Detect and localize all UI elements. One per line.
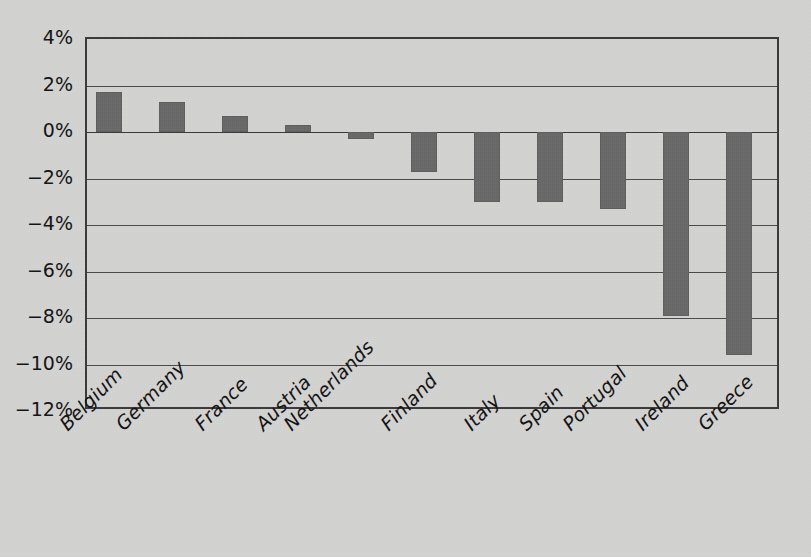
y-axis-tick-label: −6% (0, 260, 73, 279)
bar (222, 116, 248, 132)
y-axis-tick-label: −10% (0, 353, 73, 372)
bar (474, 132, 500, 202)
bar (726, 132, 752, 355)
bar (285, 125, 311, 132)
bar (96, 92, 122, 132)
y-axis-tick-label: 0% (0, 121, 73, 140)
bar (537, 132, 563, 202)
y-axis-tick-label: −2% (0, 167, 73, 186)
bar (159, 102, 185, 132)
y-axis-tick-label: 2% (0, 74, 73, 93)
y-axis-tick-label: −4% (0, 214, 73, 233)
bar (600, 132, 626, 209)
y-axis-tick-label: −8% (0, 307, 73, 326)
y-axis-tick-label: 4% (0, 28, 73, 47)
bar (663, 132, 689, 316)
x-axis-labels: BelgiumGermanyFranceAustriaNetherlandsFi… (85, 409, 779, 557)
chart-page: 4%2%0%−2%−4%−6%−8%−10%−12% BelgiumGerman… (0, 0, 811, 557)
bar-series (87, 39, 777, 407)
bar (348, 132, 374, 139)
plot-area (85, 37, 779, 409)
bar (411, 132, 437, 172)
